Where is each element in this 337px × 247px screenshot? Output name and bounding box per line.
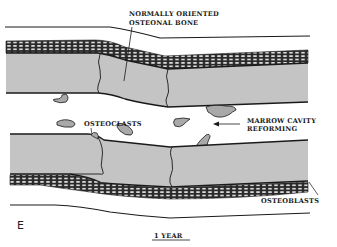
bottom-periosteum-line xyxy=(10,205,310,218)
label-osteoblasts: OSTEOBLASTS xyxy=(261,197,319,205)
marrow-arrowhead xyxy=(213,122,219,127)
top-periosteum-line xyxy=(5,27,310,38)
label-osteonal-line1: NORMALLY ORIENTED xyxy=(129,10,219,18)
label-marrow-line2: REFORMING xyxy=(247,125,297,133)
bone-healing-diagram: NORMALLY ORIENTED OSTEONAL BONE OSTEOCLA… xyxy=(0,0,337,247)
osteoclast-cell xyxy=(174,118,191,127)
panel-letter: E xyxy=(17,219,24,232)
osteoclast-cell xyxy=(196,134,210,146)
caption-time: 1 YEAR xyxy=(154,232,183,240)
label-osteonal-line2: OSTEONAL BONE xyxy=(129,19,198,27)
osteoclast-cell xyxy=(206,105,236,117)
osteoclast-cell xyxy=(57,120,75,128)
label-marrow-line1: MARROW CAVITY xyxy=(247,117,316,125)
osteoblasts-leader-line xyxy=(309,182,318,195)
osteoclast-cell xyxy=(53,94,68,103)
label-osteoclasts: OSTEOCLASTS xyxy=(84,120,142,128)
